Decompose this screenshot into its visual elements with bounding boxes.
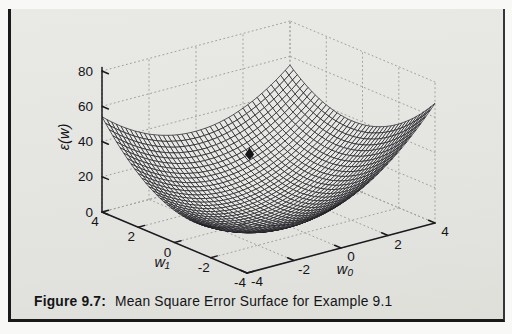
z-axis-tick: [102, 71, 108, 74]
z-axis-tick: [102, 106, 108, 109]
figure-caption: Figure 9.7:Mean Square Error Surface for…: [34, 294, 392, 309]
w0-axis-tick: [382, 233, 388, 236]
w1-axis-tick: [211, 256, 218, 258]
surface-mesh: [102, 65, 435, 233]
w1-axis-tick: [175, 241, 182, 243]
w0-axis-tick: [288, 258, 294, 261]
w1-axis-tick: [102, 210, 109, 212]
w1-tick-label: -4: [234, 275, 246, 290]
w0-axis-tick: [335, 245, 341, 248]
z-tick-label: 60: [78, 99, 93, 114]
w0-axis-label: w₀: [337, 261, 354, 277]
z-tick-label: 20: [78, 169, 93, 184]
w0-tick-label: -2: [298, 262, 310, 277]
w1-tick-label: 4: [91, 214, 99, 229]
w1-axis-tick: [247, 271, 254, 273]
w1-axis-label: w₁: [154, 254, 169, 270]
figure-caption-label: Figure 9.7:: [34, 294, 106, 309]
figure-caption-text: Mean Square Error Surface for Example 9.…: [115, 294, 392, 309]
w0-axis-tick: [429, 220, 435, 223]
z-tick-label: 40: [78, 134, 93, 149]
w0-axis-tick: [241, 270, 247, 273]
mse-surface-plot: 020406080420-2-4-4-2024w₁w₀ε(w): [0, 0, 512, 334]
z-axis-tick: [102, 177, 108, 180]
w0-tick-label: 4: [441, 224, 449, 239]
z-tick-label: 80: [78, 64, 93, 79]
w1-tick-label: 2: [128, 229, 136, 244]
w0-tick-label: 2: [394, 237, 402, 252]
z-axis-label: ε(w): [56, 124, 72, 151]
w0-tick-label: -4: [251, 274, 263, 289]
scanned-figure-page: 020406080420-2-4-4-2024w₁w₀ε(w) Figure 9…: [0, 0, 512, 334]
w1-axis-tick: [138, 225, 145, 227]
z-axis-tick: [102, 142, 108, 145]
w1-tick-label: -2: [198, 260, 210, 275]
